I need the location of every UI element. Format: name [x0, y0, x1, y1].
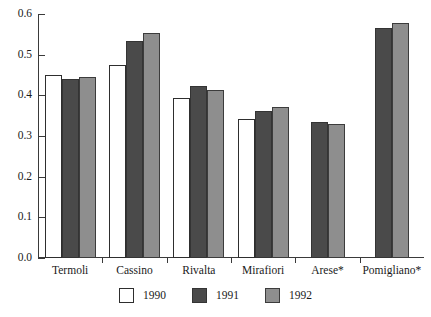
legend-swatch-1990 — [119, 288, 134, 303]
y-axis-tick — [38, 258, 45, 259]
y-axis-tick-label: 0.2 — [0, 171, 32, 183]
bar-pomigliano-1991 — [375, 28, 392, 258]
y-axis-tick-label: 0.3 — [0, 130, 32, 142]
x-axis-tick — [360, 258, 361, 263]
y-axis-tick-label: 0.0 — [0, 252, 32, 264]
y-axis-tick-label: 0.6 — [0, 8, 32, 20]
bar-pomigliano-1992 — [392, 23, 409, 258]
bar-arese-1991 — [311, 122, 328, 258]
x-axis-tick — [167, 258, 168, 263]
legend-swatch-1992 — [265, 288, 280, 303]
bar-termoli-1990 — [45, 75, 62, 258]
bar-chart: 0.00.10.20.30.40.50.6 TermoliCassinoRiva… — [0, 0, 431, 317]
bar-cassino-1990 — [109, 65, 126, 258]
bar-group — [311, 14, 345, 258]
x-axis-tick — [295, 258, 296, 263]
legend-item-1990: 1990 — [119, 288, 166, 303]
legend-label-1992: 1992 — [289, 290, 312, 302]
bar-cassino-1992 — [143, 33, 160, 258]
bar-rivalta-1992 — [207, 90, 224, 258]
bar-group — [109, 14, 160, 258]
y-axis-tick-label: 0.1 — [0, 211, 32, 223]
bar-cassino-1991 — [126, 41, 143, 258]
bar-rivalta-1990 — [173, 98, 190, 258]
bar-rivalta-1991 — [190, 86, 207, 258]
plot-area — [38, 14, 424, 258]
bar-mirafiori-1990 — [238, 119, 255, 258]
bar-termoli-1991 — [62, 79, 79, 258]
chart-legend: 199019911992 — [0, 288, 431, 303]
x-axis-tick — [231, 258, 232, 263]
bar-group — [238, 14, 289, 258]
bar-group — [375, 14, 409, 258]
bar-termoli-1992 — [79, 77, 96, 258]
legend-label-1991: 1991 — [216, 290, 239, 302]
legend-swatch-1991 — [192, 288, 207, 303]
x-axis-label: Pomigliano* — [342, 264, 431, 277]
bar-mirafiori-1991 — [255, 111, 272, 258]
bar-arese-1992 — [328, 124, 345, 258]
bar-group — [45, 14, 96, 258]
legend-item-1992: 1992 — [265, 288, 312, 303]
legend-item-1991: 1991 — [192, 288, 239, 303]
bar-group — [173, 14, 224, 258]
legend-label-1990: 1990 — [143, 290, 166, 302]
y-axis-tick-label: 0.5 — [0, 49, 32, 61]
y-axis-tick-label: 0.4 — [0, 89, 32, 101]
bar-mirafiori-1992 — [272, 107, 289, 258]
x-axis-tick — [102, 258, 103, 263]
